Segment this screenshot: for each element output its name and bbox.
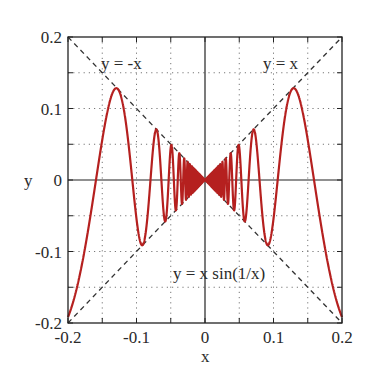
y-axis-label: y [24,171,33,190]
x-tick-label: 0 [201,328,210,347]
x-tick-labels: -0.2-0.100.10.2 [55,328,353,347]
x-tick-label: -0.1 [123,328,150,347]
y-tick-label: 0.1 [41,100,62,119]
y-tick-label: -0.2 [35,314,62,333]
x-axis-label: x [201,347,210,366]
annotation-y-eq-x: y = x [263,54,299,73]
y-tick-label: -0.1 [35,243,62,262]
x-tick-label: 0.1 [263,328,284,347]
x-tick-label: 0.2 [331,328,352,347]
y-tick-label: 0 [54,171,63,190]
y-tick-labels: 0.20.10-0.1-0.2 [35,28,62,333]
annotation-y-eq-neg-x: y = -x [101,54,142,73]
annotation-function: y = x sin(1/x) [173,264,265,283]
chart: -0.2-0.100.10.2 0.20.10-0.1-0.2 y = -x y… [0,0,379,371]
y-tick-label: 0.2 [41,28,62,47]
